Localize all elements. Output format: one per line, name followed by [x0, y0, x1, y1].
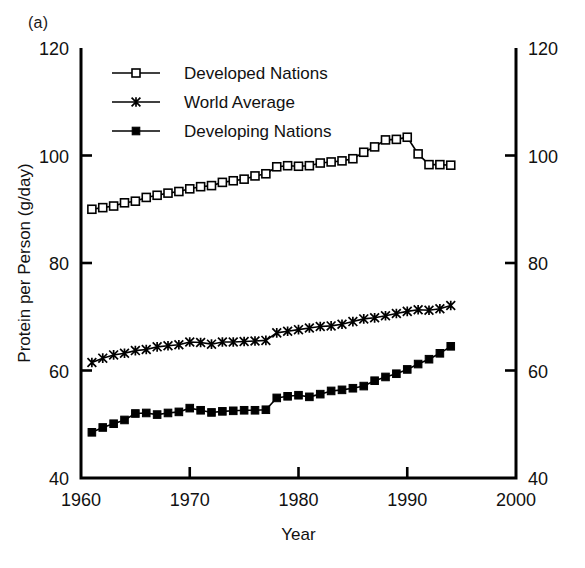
marker-open-square — [284, 162, 292, 170]
marker-filled-square — [153, 411, 161, 419]
x-axis-title: Year — [281, 525, 316, 544]
protein-per-person-figure: (a) 196019701980199020004040606080801001… — [0, 0, 585, 568]
y-tick-label-right: 60 — [528, 362, 548, 382]
y-tick-label-right: 120 — [528, 39, 558, 59]
protein-chart: 1960197019801990200040406060808010010012… — [0, 0, 585, 568]
x-tick-label: 2000 — [496, 490, 536, 510]
marker-open-square — [142, 193, 150, 201]
marker-filled-square — [371, 377, 379, 385]
marker-filled-square — [295, 391, 303, 399]
marker-open-square — [371, 143, 379, 151]
marker-filled-square — [88, 429, 96, 437]
marker-open-square — [262, 170, 270, 178]
marker-open-square — [121, 199, 129, 207]
marker-open-square — [273, 163, 281, 171]
marker-open-square — [360, 148, 368, 156]
marker-open-square — [447, 161, 455, 169]
marker-filled-square — [186, 404, 194, 412]
marker-filled-square — [414, 360, 422, 368]
y-tick-label-left: 100 — [39, 147, 69, 167]
marker-filled-square — [208, 409, 216, 417]
x-tick-label: 1990 — [387, 490, 427, 510]
marker-open-square — [414, 150, 422, 158]
marker-open-square — [425, 161, 433, 169]
y-tick-label-right: 80 — [528, 254, 548, 274]
marker-open-square — [197, 183, 205, 191]
marker-open-square — [349, 155, 357, 163]
marker-filled-square — [121, 416, 129, 424]
marker-filled-square — [360, 382, 368, 390]
legend-label: World Average — [184, 93, 295, 112]
marker-open-square — [99, 204, 107, 212]
marker-open-square — [327, 158, 335, 166]
marker-filled-square — [219, 408, 227, 416]
x-tick-label: 1960 — [61, 490, 101, 510]
marker-filled-square — [436, 350, 444, 358]
marker-open-square — [251, 172, 259, 180]
marker-filled-square — [110, 420, 118, 428]
marker-open-square — [208, 182, 216, 190]
marker-filled-square — [273, 394, 281, 402]
marker-filled-square — [349, 384, 357, 392]
marker-open-square — [295, 162, 303, 170]
marker-open-square — [305, 162, 313, 170]
marker-filled-square — [382, 373, 390, 381]
y-tick-label-left: 80 — [49, 254, 69, 274]
legend-item-3[interactable]: Developing Nations — [112, 122, 331, 141]
series-3 — [88, 343, 454, 437]
marker-open-square — [229, 177, 237, 185]
x-tick-label: 1980 — [278, 490, 318, 510]
y-axis-title: Protein per Person (g/day) — [15, 163, 34, 362]
legend-item-2[interactable]: World Average — [112, 93, 295, 112]
marker-open-square — [382, 136, 390, 144]
marker-open-square — [88, 205, 96, 213]
y-tick-label-left: 60 — [49, 362, 69, 382]
marker-open-square — [110, 202, 118, 210]
legend-item-1[interactable]: Developed Nations — [112, 64, 328, 83]
marker-open-square — [131, 197, 139, 205]
marker-open-square — [403, 133, 411, 141]
marker-open-square — [338, 157, 346, 165]
marker-filled-square — [251, 406, 259, 414]
marker-filled-square — [197, 406, 205, 414]
y-tick-label-right: 100 — [528, 147, 558, 167]
marker-filled-square — [284, 393, 292, 401]
marker-filled-square — [229, 407, 237, 415]
marker-filled-square — [316, 390, 324, 398]
marker-filled-square — [447, 343, 455, 351]
legend-label: Developed Nations — [184, 64, 328, 83]
marker-filled-square — [306, 393, 314, 401]
marker-filled-square — [338, 386, 346, 394]
marker-filled-square — [425, 355, 433, 363]
marker-open-square — [316, 159, 324, 167]
y-tick-label-right: 40 — [528, 469, 548, 489]
marker-open-square — [240, 175, 248, 183]
series-1 — [88, 133, 455, 213]
marker-filled-square — [132, 127, 140, 135]
y-tick-label-left: 120 — [39, 39, 69, 59]
marker-filled-square — [142, 409, 150, 417]
marker-filled-square — [99, 424, 107, 432]
series-line — [92, 346, 451, 432]
marker-filled-square — [164, 409, 172, 417]
marker-star-x — [87, 358, 96, 368]
marker-filled-square — [175, 408, 183, 416]
marker-open-square — [218, 178, 226, 186]
legend-label: Developing Nations — [184, 122, 331, 141]
marker-open-square — [153, 191, 161, 199]
marker-open-square — [164, 189, 172, 197]
marker-filled-square — [327, 387, 335, 395]
marker-filled-square — [262, 406, 270, 414]
marker-star-x — [446, 301, 455, 311]
marker-filled-square — [240, 406, 248, 414]
x-tick-label: 1970 — [170, 490, 210, 510]
marker-open-square — [392, 135, 400, 143]
marker-star-x — [98, 353, 107, 363]
marker-open-square — [132, 69, 140, 77]
series-2 — [87, 301, 455, 368]
marker-open-square — [186, 185, 194, 193]
marker-filled-square — [393, 370, 401, 378]
marker-filled-square — [403, 366, 411, 374]
y-tick-label-left: 40 — [49, 469, 69, 489]
marker-open-square — [436, 161, 444, 169]
